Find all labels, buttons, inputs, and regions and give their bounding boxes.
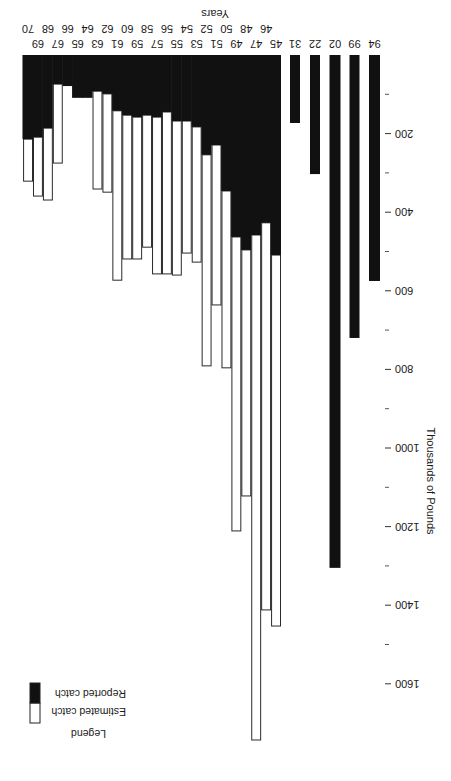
bar-reported-1956 [161, 55, 172, 112]
bar-reported-1965 [72, 55, 83, 98]
x-tick-label: 31 [289, 38, 301, 50]
legend-label-estimated: Estimated catch [51, 706, 126, 718]
bar-reported-1947 [251, 55, 262, 235]
x-axis-title: Years [201, 8, 229, 20]
bars-group [22, 55, 380, 740]
bar-reported-1964 [82, 55, 93, 98]
x-tick-label: 46 [260, 23, 272, 35]
bar-reported-1948 [241, 55, 252, 250]
x-tick-label: 99 [348, 38, 360, 50]
bar-reported-1962 [102, 55, 113, 94]
bar-reported-1955 [171, 55, 182, 121]
bar-reported-1961 [112, 55, 123, 111]
x-tick-label: 48 [240, 23, 252, 35]
x-tick-label: 52 [200, 23, 212, 35]
legend-swatch-reported [30, 683, 40, 703]
bar-estimated-1956 [162, 112, 171, 274]
bar-reported-1952 [201, 55, 212, 155]
x-tick-label: 94 [368, 38, 380, 50]
bar-reported-1931 [290, 55, 300, 123]
x-tick-label: 66 [62, 23, 74, 35]
y-axis: 2004006008001000120014001600 [385, 94, 419, 690]
bar-reported-1950 [221, 55, 232, 191]
bar-estimated-1970 [24, 139, 33, 181]
x-tick-label: 55 [171, 38, 183, 50]
y-tick-label: 600 [395, 285, 413, 297]
bar-estimated-1958 [143, 115, 152, 247]
x-tick-label: 53 [191, 38, 203, 50]
legend-swatch-estimated [30, 703, 40, 723]
x-tick-label: 68 [42, 23, 54, 35]
bar-reported-1945 [270, 55, 281, 255]
x-tick-label: 50 [220, 23, 232, 35]
bar-estimated-1959 [133, 117, 142, 259]
bar-reported-1954 [181, 55, 192, 121]
x-axis: 9499022231454749515355575961636567694648… [22, 23, 381, 50]
y-tick-label: 1600 [395, 678, 419, 690]
bar-estimated-1951 [212, 145, 221, 305]
bar-reported-1946 [261, 55, 272, 223]
x-tick-label: 60 [121, 23, 133, 35]
bar-estimated-1968 [43, 128, 52, 200]
bar-estimated-1957 [153, 117, 162, 274]
x-tick-label: 63 [91, 38, 103, 50]
bar-estimated-1969 [34, 137, 43, 196]
bar-reported-1967 [52, 55, 63, 84]
y-tick-label: 1000 [395, 442, 419, 454]
y-tick-label: 400 [395, 206, 413, 218]
bar-reported-1949 [231, 55, 242, 237]
bar-estimated-1946 [262, 223, 271, 610]
x-tick-label: 69 [32, 38, 44, 50]
bar-estimated-1960 [123, 115, 132, 259]
x-tick-label: 54 [181, 23, 193, 35]
y-tick-label: 1400 [395, 599, 419, 611]
bar-reported-1902 [330, 55, 341, 568]
bar-reported-1968 [42, 55, 53, 128]
chart-stage: 2004006008001000120014001600 94990222314… [0, 0, 451, 781]
bar-reported-1966 [62, 55, 73, 86]
legend: Legend Estimated catch Reported catch [30, 683, 126, 740]
bar-estimated-1947 [252, 235, 261, 740]
x-tick-label: 58 [141, 23, 153, 35]
y-tick-label: 1200 [395, 521, 419, 533]
bar-reported-1951 [211, 55, 222, 145]
bar-estimated-1948 [242, 250, 251, 496]
bar-estimated-1945 [272, 255, 281, 626]
x-tick-label: 70 [22, 23, 34, 35]
x-tick-label: 57 [151, 38, 163, 50]
bar-estimated-1954 [182, 121, 191, 253]
bar-estimated-1962 [103, 94, 112, 192]
bar-estimated-1953 [192, 127, 201, 262]
legend-label-reported: Reported catch [55, 688, 126, 700]
bar-reported-1957 [151, 55, 162, 117]
x-tick-label: 61 [111, 38, 123, 50]
bar-reported-1959 [132, 55, 143, 117]
bar-estimated-1963 [93, 91, 102, 189]
bar-reported-1960 [122, 55, 133, 115]
bar-reported-1969 [32, 55, 43, 137]
bar-estimated-1950 [222, 191, 231, 368]
catch-bar-chart: 2004006008001000120014001600 94990222314… [0, 0, 451, 781]
x-tick-label: 02 [329, 38, 341, 50]
bar-reported-1970 [22, 55, 33, 139]
bar-reported-1963 [92, 55, 103, 91]
x-tick-label: 51 [210, 38, 222, 50]
x-tick-label: 64 [81, 23, 93, 35]
bar-reported-1899 [350, 55, 360, 338]
x-tick-label: 67 [52, 38, 64, 50]
y-axis-title: Thousands of Pounds [425, 427, 437, 535]
x-tick-label: 59 [131, 38, 143, 50]
bar-estimated-1967 [53, 84, 62, 163]
bar-reported-1958 [142, 55, 153, 115]
bar-estimated-1949 [232, 237, 241, 531]
x-tick-label: 47 [250, 38, 262, 50]
bar-estimated-1955 [172, 121, 181, 275]
bar-estimated-1952 [202, 155, 211, 366]
x-tick-label: 65 [72, 38, 84, 50]
bar-reported-1894 [369, 55, 380, 281]
x-tick-label: 49 [230, 38, 242, 50]
x-tick-label: 45 [270, 38, 282, 50]
x-tick-label: 56 [161, 23, 173, 35]
bar-reported-1953 [191, 55, 202, 127]
x-tick-label: 62 [101, 23, 113, 35]
